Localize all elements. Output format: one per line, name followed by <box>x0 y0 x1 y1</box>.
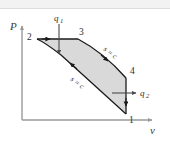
q2-subscript: 2 <box>146 92 150 99</box>
state-label-4: 4 <box>130 66 135 76</box>
q1-label-group: q 1 <box>54 13 63 24</box>
top-margin-rule <box>0 8 170 9</box>
pressure-axis-label: P <box>9 20 17 32</box>
q1-subscript: 1 <box>60 17 63 24</box>
q2-label-group: q 2 <box>140 88 150 99</box>
process-label-sc-lower: s = c <box>69 74 87 91</box>
diagram-canvas: P v 2 3 4 1 q 1 q 2 s = c s = c <box>0 0 170 150</box>
q2-label: q <box>140 88 145 98</box>
state-label-2: 2 <box>27 32 32 42</box>
volume-axis-label: v <box>150 124 155 136</box>
q1-label: q <box>54 13 59 23</box>
state-label-1: 1 <box>129 115 134 125</box>
state-label-3: 3 <box>79 27 84 37</box>
pv-diagram-figure: P v 2 3 4 1 q 1 q 2 s = c s = c <box>0 0 170 150</box>
